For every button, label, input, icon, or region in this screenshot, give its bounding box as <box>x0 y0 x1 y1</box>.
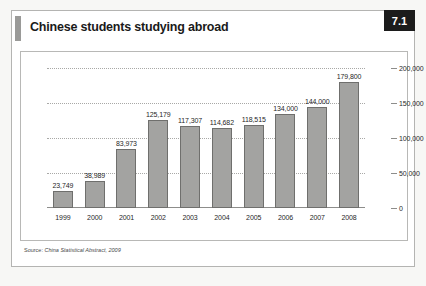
bar-group: 125,1792002 <box>142 68 174 208</box>
x-axis-tick-label: 2003 <box>182 214 197 221</box>
bar-value-label: 38,989 <box>84 172 105 179</box>
bar-group: 144,0002007 <box>301 68 333 208</box>
bar <box>275 114 295 208</box>
source-label: Source: <box>24 247 43 253</box>
bar-group: 179,8002008 <box>333 68 365 208</box>
bar-group: 117,3072003 <box>174 68 206 208</box>
source-note: Source: China Statistical Abstract, 2009 <box>24 247 121 253</box>
y-axis-tick-label: 0 <box>399 205 403 212</box>
figure-title-bar: Chinese students studying abroad 7.1 <box>12 11 414 46</box>
x-axis-tick-label: 2000 <box>87 214 102 221</box>
bar-value-label: 179,800 <box>337 73 362 80</box>
y-axis-tick-label: 200,000 <box>399 65 424 72</box>
chart-bars: 23,749199938,989200083,9732001125,179200… <box>47 68 365 208</box>
bar-group: 114,6822004 <box>206 68 238 208</box>
figure-container: Chinese students studying abroad 7.1 050… <box>11 10 415 267</box>
bar <box>180 126 200 208</box>
bar-group: 83,9732001 <box>111 68 143 208</box>
y-axis-tick-mark <box>391 208 397 209</box>
bar-value-label: 134,000 <box>273 105 298 112</box>
figure-number-badge: 7.1 <box>384 10 415 31</box>
x-axis-tick-label: 1999 <box>55 214 70 221</box>
bar-group: 38,9892000 <box>79 68 111 208</box>
chart-plot-frame: 050,000100,000150,000200,000 23,74919993… <box>20 51 408 241</box>
x-axis-tick-label: 2006 <box>278 214 293 221</box>
chart-plot-area: 050,000100,000150,000200,000 23,74919993… <box>47 68 365 208</box>
title-accent-mark <box>15 16 21 41</box>
bar-value-label: 118,515 <box>242 116 266 123</box>
bar <box>53 191 73 208</box>
bar <box>212 128 232 208</box>
bar <box>307 107 327 208</box>
bar-value-label: 125,179 <box>146 111 171 118</box>
y-axis-tick-label: 50,000 <box>399 170 420 177</box>
x-axis-tick-label: 2002 <box>151 214 166 221</box>
bar-group: 23,7491999 <box>47 68 79 208</box>
y-axis-tick-mark <box>391 68 397 69</box>
x-axis-tick-label: 2004 <box>214 214 229 221</box>
bar <box>116 149 136 208</box>
y-axis-tick-mark <box>391 103 397 104</box>
page-title: Chinese students studying abroad <box>30 20 229 34</box>
bar-value-label: 114,682 <box>210 119 234 126</box>
x-axis-tick-label: 2007 <box>310 214 325 221</box>
y-axis-tick-label: 150,000 <box>399 100 424 107</box>
x-axis-tick-label: 2008 <box>341 214 356 221</box>
bar-group: 134,0002006 <box>270 68 302 208</box>
bar-value-label: 23,749 <box>52 182 73 189</box>
bar-value-label: 83,973 <box>116 140 137 147</box>
bar-group: 118,5152005 <box>238 68 270 208</box>
bar-value-label: 117,307 <box>178 117 202 124</box>
bar <box>244 125 264 208</box>
y-axis-tick-mark <box>391 173 397 174</box>
bar <box>148 120 168 208</box>
y-axis-tick-mark <box>391 138 397 139</box>
bar-value-label: 144,000 <box>305 98 330 105</box>
x-axis-tick-label: 2001 <box>119 214 134 221</box>
y-axis-tick-label: 100,000 <box>399 135 424 142</box>
bar <box>339 82 359 208</box>
source-citation: China Statistical Abstract, 2009 <box>45 247 121 253</box>
bar <box>85 181 105 208</box>
page-background: Chinese students studying abroad 7.1 050… <box>0 0 426 286</box>
x-axis-tick-label: 2005 <box>246 214 261 221</box>
